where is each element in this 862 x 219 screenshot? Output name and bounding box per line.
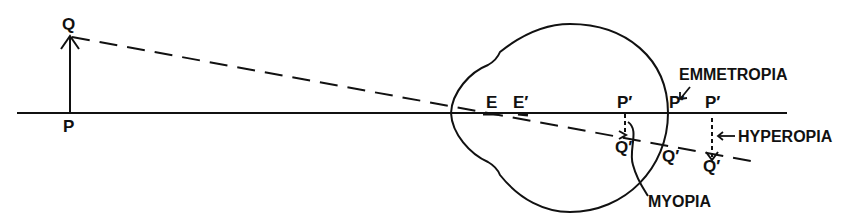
eye-outline	[451, 24, 668, 212]
eye-refraction-diagram: Q P E E′ P′ Q′ P′ Q′ P′ Q′ EMMETROPIA HY…	[0, 0, 862, 219]
chief-ray	[72, 37, 756, 162]
myopia-image-arrow	[619, 114, 626, 139]
label-myopia-q: Q′	[615, 138, 632, 157]
label-myopia: MYOPIA	[648, 193, 712, 210]
label-emmetropia-q: Q′	[662, 147, 679, 166]
label-emmetropia-p: P′	[669, 93, 684, 112]
object-arrow	[61, 36, 79, 113]
label-myopia-p: P′	[617, 93, 632, 112]
hyperopia-pointer	[718, 132, 735, 140]
label-p: P	[63, 117, 74, 136]
hyperopia-image-arrow	[706, 118, 718, 160]
label-hyperopia-q: Q′	[703, 157, 720, 176]
label-q: Q	[62, 15, 75, 34]
label-emmetropia: EMMETROPIA	[679, 66, 788, 83]
label-e-prime: E′	[513, 93, 528, 112]
label-hyperopia-p: P′	[705, 93, 720, 112]
label-e: E	[486, 93, 497, 112]
label-hyperopia: HYPEROPIA	[738, 128, 833, 145]
nodal-mark-e-prime	[518, 114, 528, 115]
